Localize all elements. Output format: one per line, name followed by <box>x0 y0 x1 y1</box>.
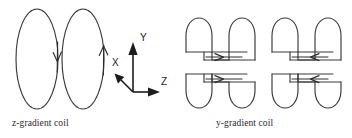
axis-label-x: X <box>112 57 119 68</box>
saddle-top-right <box>272 18 341 61</box>
z-coil-left-current-arrow <box>53 42 61 72</box>
axis-label-z: Z <box>161 76 167 87</box>
z-gradient-coil-group <box>16 9 108 109</box>
z-gradient-coil-caption: z-gradient coil <box>12 118 69 128</box>
axis-y <box>128 42 137 92</box>
axis-z <box>133 88 160 97</box>
axis-label-y: Y <box>140 32 147 43</box>
saddle-bottom-right <box>272 74 341 108</box>
z-coil-right-ring <box>62 9 104 109</box>
y-gradient-coil-caption: y-gradient coil <box>216 118 273 128</box>
saddle-top-left <box>186 18 255 61</box>
figure-canvas: X Y Z z-gradient coil y-gradient coil <box>0 0 352 138</box>
axis-x <box>115 74 134 93</box>
z-coil-right-current-arrow <box>99 45 108 75</box>
y-gradient-coil-group <box>186 18 341 108</box>
z-coil-left-ring <box>16 9 58 109</box>
saddle-bottom-left <box>186 74 255 108</box>
coordinate-axes-group <box>115 42 161 96</box>
